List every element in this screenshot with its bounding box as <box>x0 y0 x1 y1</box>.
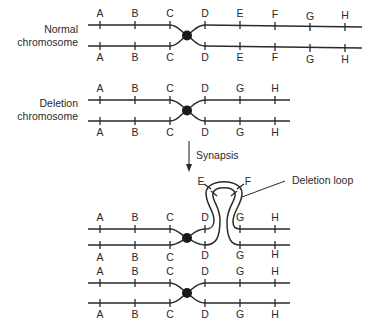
paired-bottom-gene-labels: A B C D G H <box>96 308 278 320</box>
svg-text:A: A <box>96 7 103 19</box>
svg-text:H: H <box>271 248 279 260</box>
svg-text:G: G <box>236 265 244 277</box>
deletion-label-line2: chromosome <box>17 110 78 122</box>
svg-text:H: H <box>271 126 279 138</box>
svg-text:H: H <box>271 265 279 277</box>
svg-text:G: G <box>306 10 314 22</box>
paired-centromere <box>182 288 192 298</box>
svg-text:G: G <box>236 211 244 223</box>
svg-text:A: A <box>96 51 103 63</box>
svg-text:H: H <box>341 9 349 21</box>
svg-text:A: A <box>96 126 103 138</box>
svg-text:B: B <box>131 308 138 320</box>
deletion-chromosome-diagram: Normal chromosome A B C <box>0 0 371 330</box>
svg-text:G: G <box>236 82 244 94</box>
svg-text:C: C <box>166 211 174 223</box>
svg-text:B: B <box>131 211 138 223</box>
synapsis-label: Synapsis <box>196 149 239 161</box>
svg-text:B: B <box>131 251 138 263</box>
svg-text:F: F <box>272 8 278 20</box>
normal-top-gene-labels: A B C D E F G H <box>96 7 348 22</box>
svg-text:C: C <box>166 265 174 277</box>
synapsis-arrow: Synapsis <box>186 141 239 172</box>
svg-text:H: H <box>341 53 349 65</box>
svg-text:B: B <box>131 82 138 94</box>
normal-chromosome: Normal chromosome A B C <box>17 7 362 65</box>
svg-text:D: D <box>201 7 209 19</box>
svg-text:C: C <box>166 82 174 94</box>
normal-bottom-gene-labels: A B C D E F G H <box>96 51 348 65</box>
svg-text:D: D <box>201 265 209 277</box>
svg-text:C: C <box>166 51 174 63</box>
normal-label-line2: chromosome <box>17 36 78 48</box>
svg-text:A: A <box>96 251 103 263</box>
loop-gene-e: E <box>197 175 204 187</box>
normal-label-line1: Normal <box>44 23 78 35</box>
svg-text:G: G <box>236 249 244 261</box>
svg-text:C: C <box>166 7 174 19</box>
arrow-down-icon <box>186 164 192 172</box>
synapsed-bottom-gene-labels: A B C D G H <box>96 248 278 263</box>
deletion-loop-label: Deletion loop <box>292 174 353 186</box>
svg-text:D: D <box>201 249 209 261</box>
svg-text:E: E <box>236 7 243 19</box>
svg-text:D: D <box>201 82 209 94</box>
svg-text:A: A <box>96 308 103 320</box>
loop-gene-f: F <box>245 175 251 187</box>
deletion-chromosome: Deletion chromosome A B C D G H <box>17 82 290 138</box>
svg-text:B: B <box>131 126 138 138</box>
deletion-top-gene-labels: A B C D G H <box>96 82 278 94</box>
paired-deletion-chromosome: A B C D G H A B C <box>88 265 290 320</box>
synapsed-top-gene-labels: A B C D G H <box>96 211 278 223</box>
svg-text:A: A <box>96 265 103 277</box>
svg-text:B: B <box>131 7 138 19</box>
svg-text:C: C <box>166 126 174 138</box>
svg-text:E: E <box>236 51 243 63</box>
svg-text:B: B <box>131 265 138 277</box>
svg-text:H: H <box>271 82 279 94</box>
svg-text:H: H <box>271 211 279 223</box>
svg-text:G: G <box>236 308 244 320</box>
svg-text:H: H <box>271 308 279 320</box>
svg-text:D: D <box>201 51 209 63</box>
svg-text:B: B <box>131 51 138 63</box>
synapsed-centromere <box>182 233 192 243</box>
deletion-centromere <box>182 106 192 116</box>
normal-centromere <box>182 31 192 41</box>
svg-text:G: G <box>236 126 244 138</box>
svg-text:D: D <box>201 126 209 138</box>
svg-text:F: F <box>272 51 278 63</box>
deletion-bottom-gene-labels: A B C D G H <box>96 126 278 138</box>
svg-text:C: C <box>166 251 174 263</box>
synapsed-pair: E F Deletion loop A B C D G H <box>88 174 353 263</box>
deletion-label-line1: Deletion <box>39 97 78 109</box>
svg-text:C: C <box>166 308 174 320</box>
svg-text:G: G <box>306 53 314 65</box>
svg-text:D: D <box>201 308 209 320</box>
svg-text:D: D <box>201 211 209 223</box>
svg-text:A: A <box>96 211 103 223</box>
normal-bottom-chromatid <box>88 35 362 48</box>
svg-text:A: A <box>96 82 103 94</box>
normal-top-chromatid <box>88 25 362 35</box>
paired-top-gene-labels: A B C D G H <box>96 265 278 277</box>
